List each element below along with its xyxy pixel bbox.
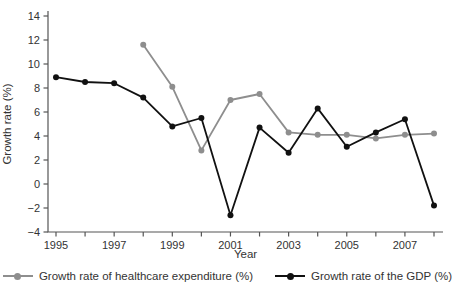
svg-text:12: 12	[28, 34, 40, 46]
growth-rate-figure: 14121086420−2−41995199719992001200320052…	[0, 0, 455, 290]
svg-text:2003: 2003	[276, 239, 300, 251]
svg-text:−4: −4	[27, 226, 40, 238]
svg-text:2: 2	[34, 154, 40, 166]
legend-item-gdp: Growth rate of the GDP (%)	[275, 270, 452, 282]
svg-text:1999: 1999	[160, 239, 184, 251]
svg-text:2007: 2007	[393, 239, 417, 251]
svg-text:6: 6	[34, 106, 40, 118]
chart-legend: Growth rate of healthcare expenditure (%…	[0, 262, 455, 290]
svg-text:1997: 1997	[102, 239, 126, 251]
growth-rate-line-chart: 14121086420−2−41995199719992001200320052…	[0, 0, 455, 262]
svg-text:Year: Year	[234, 248, 257, 260]
healthcare-series-marker-icon	[3, 273, 33, 280]
legend-item-healthcare: Growth rate of healthcare expenditure (%…	[3, 270, 253, 282]
svg-text:14: 14	[28, 10, 40, 22]
svg-text:−2: −2	[27, 202, 40, 214]
gdp-series-marker-icon	[275, 273, 305, 280]
svg-text:2005: 2005	[335, 239, 359, 251]
svg-text:1995: 1995	[44, 239, 68, 251]
svg-text:4: 4	[34, 130, 40, 142]
svg-text:Growth rate (%): Growth rate (%)	[1, 83, 13, 164]
svg-text:0: 0	[34, 178, 40, 190]
legend-label-healthcare: Growth rate of healthcare expenditure (%…	[39, 270, 253, 282]
legend-label-gdp: Growth rate of the GDP (%)	[311, 270, 452, 282]
svg-text:10: 10	[28, 58, 40, 70]
svg-text:8: 8	[34, 82, 40, 94]
